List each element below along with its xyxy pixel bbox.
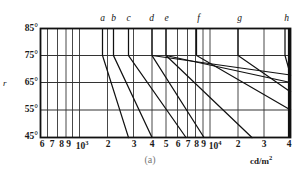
x-tick-label-3e4: 3	[258, 140, 270, 150]
top-label-d: d	[145, 14, 158, 24]
x-tick-label-2e3: 2	[102, 140, 114, 150]
figure-container: 85° 75° r 65° 55° 45° a b c d e f g h 6 …	[0, 0, 308, 178]
top-label-e: e	[160, 14, 173, 24]
chart-svg	[0, 0, 308, 178]
top-label-b: b	[107, 14, 120, 24]
x-tick-label-5e3: 5	[160, 140, 172, 150]
x-tick-label-2e4: 2	[232, 140, 244, 150]
figure-caption: (a)	[130, 155, 170, 165]
top-label-h: h	[280, 14, 293, 24]
x-tick-label-3e3: 3	[128, 140, 140, 150]
x-tick-label-1e3: 103	[72, 140, 92, 152]
top-label-g: g	[233, 14, 246, 24]
x-axis-unit-label: cd/m2	[250, 155, 272, 166]
x-tick-label-4e3: 4	[146, 140, 158, 150]
top-label-c: c	[122, 14, 135, 24]
top-label-f: f	[192, 14, 205, 24]
x-tick-label-4e4: 4	[283, 140, 295, 150]
y-axis-symbol: r	[3, 79, 7, 88]
x-tick-label-1e4: 104	[205, 140, 225, 152]
y-tick-label-65: 65°	[8, 78, 38, 88]
y-tick-label-75: 75°	[8, 51, 38, 61]
y-tick-label-45: 45°	[8, 132, 38, 142]
y-tick-label-85: 85°	[8, 24, 38, 34]
y-tick-label-55: 55°	[8, 105, 38, 115]
